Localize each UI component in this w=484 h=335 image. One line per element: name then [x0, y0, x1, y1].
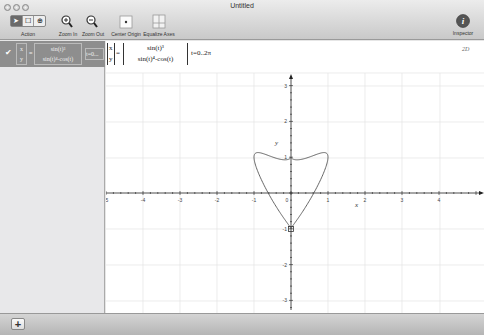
y-tick-label: -2 — [283, 262, 288, 268]
x-tick-label: 1 — [327, 197, 330, 203]
hand-tool-icon[interactable]: ☐ — [23, 16, 35, 26]
arrow-tool-icon[interactable]: ➤ — [11, 16, 23, 26]
zoom-in-icon — [57, 14, 79, 30]
action-label: Action — [21, 31, 35, 37]
x-axis-label: x — [354, 201, 359, 209]
x-tick-label: -2 — [215, 197, 220, 203]
x-tick-label: 3 — [401, 197, 404, 203]
y-tick-label: 3 — [284, 83, 287, 89]
add-equation-button[interactable]: + — [11, 318, 25, 330]
window-title: Untitled — [0, 2, 484, 9]
zoom-out-icon — [82, 14, 104, 30]
sidebar-range: t=0... — [85, 48, 104, 60]
y-tick-label: -3 — [283, 297, 288, 303]
x-tick-label: 4 — [438, 197, 441, 203]
x-tick-label: -5 — [106, 197, 108, 203]
x-tick-label: -3 — [178, 197, 183, 203]
titlebar-toolbar: Untitled ➤ ☐ ⊕ Action Zoom In Zoom — [0, 0, 484, 40]
graph-area[interactable]: x y = sin(t)³ sin(t)⁴-cos(t) t=0..2π 2D — [106, 41, 484, 313]
bottom-bar: + — [0, 313, 484, 335]
sidebar-y-label: y — [17, 54, 26, 64]
zoom-rect-tool-icon[interactable]: ⊕ — [34, 16, 45, 26]
equation-list-sidebar: ✔ x y = sin(t)³ sin(t)⁴-cos(t) t=0... — [0, 41, 105, 313]
inspector-label: Inspector — [453, 30, 474, 36]
equalize-axes-icon — [148, 14, 170, 30]
center-origin-icon — [115, 14, 137, 30]
y-axis-label: y — [274, 139, 279, 147]
app-window: Untitled ➤ ☐ ⊕ Action Zoom In Zoom — [0, 0, 484, 335]
equalize-axes-button[interactable]: Equalize Axes — [148, 14, 170, 31]
x-tick-label: -1 — [252, 197, 257, 203]
info-icon: i — [452, 13, 474, 29]
sidebar-y-expr: sin(t)⁴-cos(t) — [35, 54, 81, 64]
y-tick-label: 2 — [284, 118, 287, 124]
x-tick-label: -4 — [141, 197, 146, 203]
x-axis-arrow-icon — [479, 191, 484, 195]
sidebar-x-expr: sin(t)³ — [35, 44, 81, 54]
plot-canvas[interactable]: -5-4-3-2-101234 321-1-2-3 x y — [106, 41, 484, 313]
zoom-out-label: Zoom Out — [82, 31, 104, 37]
sidebar-x-label: x — [17, 44, 26, 54]
equation-list-item[interactable]: ✔ x y = sin(t)³ sin(t)⁴-cos(t) t=0... — [0, 41, 105, 67]
x-tick-label: 2 — [364, 197, 367, 203]
zoom-out-button[interactable]: Zoom Out — [82, 14, 104, 31]
equalize-axes-label: Equalize Axes — [143, 31, 174, 37]
x-tick-label: 0 — [286, 197, 289, 203]
action-segmented-control[interactable]: ➤ ☐ ⊕ — [10, 15, 46, 27]
y-tick-label: -1 — [283, 226, 288, 232]
zoom-in-label: Zoom In — [59, 31, 77, 37]
center-origin-button[interactable]: Center Origin — [115, 14, 137, 31]
inspector-button[interactable]: i Inspector — [452, 13, 474, 30]
center-origin-label: Center Origin — [111, 31, 141, 37]
checkmark-icon[interactable]: ✔ — [5, 48, 12, 57]
zoom-in-button[interactable]: Zoom In — [57, 14, 79, 31]
